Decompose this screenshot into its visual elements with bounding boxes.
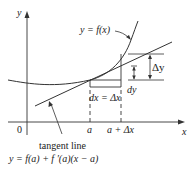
tangent-label-pointer [51,104,62,134]
x-axis-label: x [181,126,187,137]
curve-label: y = f(x) [79,24,111,36]
tick-label-a: a [87,124,92,135]
tangent-equation: y = f(a) + f ′(a)(x − a) [8,153,99,165]
dy-label: dy [127,84,137,95]
delta-y-arrow-up-icon [148,55,152,60]
tangent-line-label: tangent line [39,140,86,151]
x-axis-arrow-icon [178,120,185,125]
origin-label: 0 [17,124,22,135]
dy-arrow-down-icon [132,76,136,80]
delta-y-arrow-down-icon [148,75,152,80]
delta-y-label: Δy [152,61,165,73]
dy-arrow-up-icon [132,67,136,71]
tangent-pointer-arrow-icon [49,101,54,107]
y-axis-arrow-icon [25,11,30,18]
function-curve [8,21,138,85]
differential-diagram: y x 0 a a + Δx y = f(x) dx = Δx dy Δy ta… [0,0,195,171]
dx-label: dx = Δx [89,92,121,103]
y-axis-label: y [16,7,22,18]
tick-label-a-plus-dx: a + Δx [107,124,135,135]
